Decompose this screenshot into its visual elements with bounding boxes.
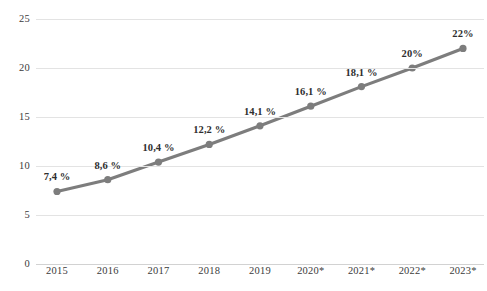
data-point-marker [53, 188, 60, 195]
x-axis-tick-label: 2021* [348, 266, 375, 277]
gridline [36, 117, 484, 118]
x-axis-tick-label: 2023* [449, 266, 476, 277]
data-point-label: 12,2 % [193, 125, 225, 136]
gridline [36, 68, 484, 69]
plot-area: 7,4 %8,6 %10,4 %12,2 %14,1 %16,1 %18,1 %… [36, 19, 484, 264]
gridline [36, 215, 484, 216]
data-point-marker [459, 45, 466, 52]
x-axis-tick-label: 2019 [249, 266, 271, 277]
x-axis-tick-label: 2018 [198, 266, 220, 277]
data-point-marker [358, 83, 365, 90]
x-axis-tick-label: 2016 [97, 266, 119, 277]
data-point-marker [256, 122, 263, 129]
data-point-label: 8,6 % [94, 160, 121, 171]
data-point-label: 20% [402, 49, 423, 60]
data-point-label: 10,4 % [142, 143, 174, 154]
y-axis-tick-label: 5 [4, 210, 30, 221]
y-axis-tick-label: 0 [4, 259, 30, 270]
x-axis-tick-label: 2017 [148, 266, 170, 277]
data-point-marker [104, 176, 111, 183]
x-axis-tick-label: 2022* [399, 266, 426, 277]
data-point-label: 22% [452, 29, 473, 40]
y-axis-tick-label: 25 [4, 14, 30, 25]
line-chart: 0510152025 7,4 %8,6 %10,4 %12,2 %14,1 %1… [0, 0, 487, 291]
y-axis: 0510152025 [0, 19, 30, 264]
data-point-label: 14,1 % [244, 106, 276, 117]
y-axis-tick-label: 20 [4, 63, 30, 74]
x-axis-tick-label: 2020* [297, 266, 324, 277]
data-point-marker [155, 158, 162, 165]
y-axis-tick-label: 10 [4, 161, 30, 172]
x-axis-tick-label: 2015 [46, 266, 68, 277]
gridline [36, 19, 484, 20]
data-point-label: 7,4 % [44, 172, 71, 183]
data-point-label: 18,1 % [345, 67, 377, 78]
data-point-marker [206, 141, 213, 148]
data-point-marker [307, 103, 314, 110]
y-axis-tick-label: 15 [4, 112, 30, 123]
data-point-label: 16,1 % [295, 87, 327, 98]
x-axis: 201520162017201820192020*2021*2022*2023* [36, 266, 484, 286]
